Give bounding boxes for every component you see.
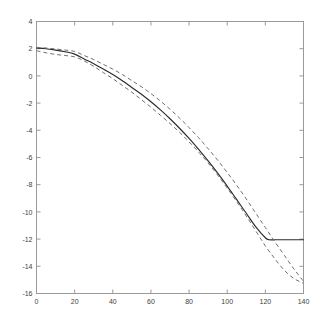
y-tick-label-9: 2 xyxy=(29,45,33,52)
y-tick-label-1: -14 xyxy=(22,263,32,270)
x-tick-label-4: 80 xyxy=(185,298,193,305)
y-tick-label-10: 4 xyxy=(29,18,33,25)
series-line-lower-band xyxy=(37,51,304,284)
line-chart-canvas: 020406080100120140-16-14-12-10-8-6-4-202… xyxy=(0,0,317,326)
series-line-upper-band xyxy=(37,47,304,281)
plot-frame-box xyxy=(37,22,304,294)
y-tick-label-6: -4 xyxy=(26,127,32,134)
x-tick-label-0: 0 xyxy=(35,298,39,305)
x-tick-label-2: 40 xyxy=(109,298,117,305)
y-tick-label-5: -6 xyxy=(26,154,32,161)
y-tick-label-2: -12 xyxy=(22,236,32,243)
axis-tick-labels: 020406080100120140-16-14-12-10-8-6-4-202… xyxy=(22,18,309,304)
y-tick-label-0: -16 xyxy=(22,290,32,297)
y-tick-label-7: -2 xyxy=(26,100,32,107)
x-tick-label-1: 20 xyxy=(71,298,79,305)
axis-frame xyxy=(37,22,304,294)
x-tick-label-6: 120 xyxy=(260,298,272,305)
x-tick-label-7: 140 xyxy=(298,298,310,305)
axis-ticks xyxy=(37,22,304,294)
data-series xyxy=(37,47,304,283)
y-tick-label-8: 0 xyxy=(29,73,33,80)
x-tick-label-5: 100 xyxy=(221,298,233,305)
y-tick-label-3: -10 xyxy=(22,209,32,216)
x-tick-label-3: 60 xyxy=(147,298,155,305)
y-tick-label-4: -8 xyxy=(26,181,32,188)
chart-figure: 020406080100120140-16-14-12-10-8-6-4-202… xyxy=(0,0,317,326)
series-line-estimate xyxy=(37,48,304,240)
